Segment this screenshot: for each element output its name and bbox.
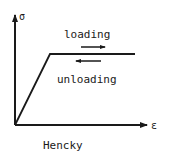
loading-label: loading — [64, 28, 110, 41]
x-axis-label: ε — [151, 120, 157, 131]
unloading-label: unloading — [57, 73, 117, 86]
hencky-stress-strain-diagram: σ ε loading unloading Hencky — [0, 0, 169, 158]
diagram-title: Hencky — [43, 139, 83, 152]
y-axis-label: σ — [19, 11, 25, 22]
stress-strain-curve — [15, 54, 135, 125]
